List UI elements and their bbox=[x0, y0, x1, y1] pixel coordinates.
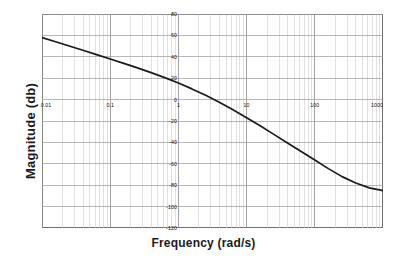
x-tick-label: 10 bbox=[244, 102, 250, 108]
x-tick-label: 1 bbox=[177, 102, 180, 108]
x-axis-title: Frequency (rad/s) bbox=[0, 236, 407, 250]
x-tick-label: 100 bbox=[310, 102, 319, 108]
y-axis-title-wrap: Magnitude (db) bbox=[22, 0, 23, 261]
y-tick-label: 40 bbox=[171, 54, 177, 60]
y-tick-label: -20 bbox=[169, 118, 177, 124]
y-tick-label: 20 bbox=[171, 75, 177, 81]
bode-magnitude-chart: Magnitude (db) 0.010.11101001000 8060402… bbox=[0, 0, 407, 261]
magnitude-curve bbox=[42, 14, 383, 228]
y-tick-label: 0 bbox=[174, 97, 177, 103]
plot-area: 0.010.11101001000 806040200-20-40-60-80-… bbox=[42, 14, 383, 228]
x-tick-label: 1000 bbox=[371, 102, 383, 108]
x-tick-label: 0.1 bbox=[106, 102, 114, 108]
y-axis-title: Magnitude (db) bbox=[23, 83, 38, 179]
y-tick-label: -40 bbox=[169, 139, 177, 145]
y-tick-label: -120 bbox=[166, 225, 177, 231]
y-tick-label: -100 bbox=[166, 204, 177, 210]
x-tick-label: 0.01 bbox=[41, 102, 52, 108]
y-tick-label: 60 bbox=[171, 32, 177, 38]
y-tick-label: -80 bbox=[169, 182, 177, 188]
y-tick-label: 80 bbox=[171, 11, 177, 17]
y-tick-label: -60 bbox=[169, 161, 177, 167]
